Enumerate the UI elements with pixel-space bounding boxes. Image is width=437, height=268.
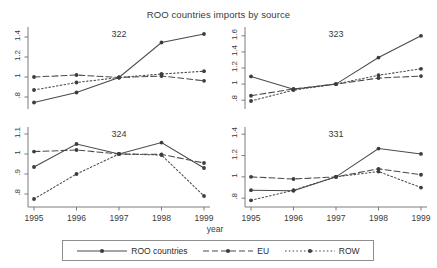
data-point-marker — [377, 56, 381, 60]
data-point-marker — [160, 41, 164, 45]
x-tick-label: 1997 — [319, 213, 353, 223]
data-point-marker — [377, 170, 381, 174]
series-line — [34, 150, 204, 163]
x-tick-label: 1999 — [187, 213, 221, 223]
data-point-marker — [419, 173, 423, 177]
x-tick-label: 1995 — [234, 213, 268, 223]
data-point-marker — [117, 76, 121, 80]
data-point-marker — [160, 153, 164, 157]
data-point-marker — [377, 73, 381, 77]
x-tick-label: 1996 — [277, 213, 311, 223]
x-tick-label: 1998 — [362, 213, 396, 223]
chart-legend: ROO countriesEUROW — [62, 240, 374, 261]
data-point-marker — [32, 197, 36, 201]
data-point-marker — [117, 152, 121, 156]
series-line — [34, 34, 204, 103]
data-point-marker — [202, 79, 206, 83]
series-line — [251, 36, 421, 89]
x-tick-label: 1998 — [145, 213, 179, 223]
legend-swatch — [284, 246, 336, 256]
data-point-marker — [32, 150, 36, 154]
series-line — [34, 154, 204, 199]
data-point-marker — [202, 32, 206, 36]
data-point-marker — [249, 99, 253, 103]
data-point-marker — [334, 82, 338, 86]
data-point-marker — [32, 88, 36, 92]
legend-item-roo-countries[interactable]: ROO countries — [76, 246, 187, 256]
data-point-marker — [292, 88, 296, 92]
data-point-marker — [419, 34, 423, 38]
chart-figure: ROO countries imports by source 322.811.… — [0, 0, 437, 268]
data-point-marker — [292, 188, 296, 192]
data-point-marker — [419, 186, 423, 190]
data-point-marker — [32, 101, 36, 105]
legend-item-eu[interactable]: EU — [202, 246, 269, 256]
data-point-marker — [249, 175, 253, 179]
data-point-marker — [202, 161, 206, 165]
data-point-marker — [202, 194, 206, 198]
data-point-marker — [160, 72, 164, 76]
data-point-marker — [377, 147, 381, 151]
x-axis-label: year — [185, 224, 245, 234]
x-tick-label: 1997 — [102, 213, 136, 223]
legend-swatch — [76, 246, 128, 256]
data-point-marker — [249, 94, 253, 98]
legend-label: ROO countries — [131, 246, 187, 256]
data-point-marker — [75, 142, 79, 146]
x-tick-label: 1996 — [60, 213, 94, 223]
legend-item-row[interactable]: ROW — [284, 246, 360, 256]
legend-label: EU — [257, 246, 269, 256]
x-tick-label: 1995 — [17, 213, 51, 223]
data-point-marker — [419, 74, 423, 78]
data-point-marker — [32, 75, 36, 79]
data-point-marker — [249, 188, 253, 192]
data-point-marker — [292, 177, 296, 181]
panel-plot-323 — [233, 31, 427, 131]
legend-label: ROW — [339, 246, 360, 256]
data-point-marker — [249, 198, 253, 202]
data-point-marker — [202, 166, 206, 170]
chart-title: ROO countries imports by source — [0, 9, 437, 20]
data-point-marker — [249, 75, 253, 79]
data-point-marker — [419, 67, 423, 71]
data-point-marker — [75, 73, 79, 77]
data-point-marker — [75, 172, 79, 176]
data-point-marker — [75, 91, 79, 95]
legend-swatch — [202, 246, 254, 256]
series-line — [251, 149, 421, 191]
data-point-marker — [334, 175, 338, 179]
data-point-marker — [419, 152, 423, 156]
data-point-marker — [75, 148, 79, 152]
data-point-marker — [160, 141, 164, 145]
series-line — [34, 71, 204, 90]
data-point-marker — [32, 165, 36, 169]
x-tick-label: 1999 — [404, 213, 437, 223]
data-point-marker — [75, 81, 79, 85]
data-point-marker — [202, 69, 206, 73]
panel-plot-322 — [16, 31, 210, 131]
